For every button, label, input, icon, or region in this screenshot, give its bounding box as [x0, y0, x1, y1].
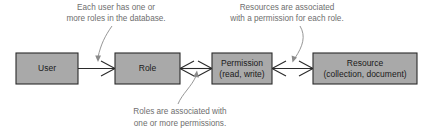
crow-foot-role-side	[101, 61, 115, 76]
entity-label-user: User	[38, 63, 56, 73]
leader-arrowhead-user-role	[95, 55, 101, 62]
entity-label-resource-line1: Resource	[347, 58, 384, 68]
crow-foot-permission-left	[198, 61, 212, 76]
leader-line-role-permission	[178, 76, 196, 104]
entity-relationship-diagram: User Role Permission (read, write) Resou…	[0, 0, 429, 133]
crow-foot-role-right	[180, 61, 194, 76]
annotation-permission-resource-line1: Resources are associated	[240, 3, 335, 12]
annotation-user-role-line1: Each user has one or	[77, 3, 155, 12]
entity-label-resource-line2: (collection, document)	[323, 69, 406, 79]
crow-foot-resource-left	[299, 61, 313, 76]
diagram-canvas: User Role Permission (read, write) Resou…	[0, 0, 429, 133]
annotation-role-permission-line1: Roles are associated with	[133, 107, 227, 116]
entity-permission[interactable]: Permission (read, write)	[212, 53, 272, 84]
relationship-permission-to-resource	[272, 61, 313, 76]
entity-label-role: Role	[139, 63, 157, 73]
leader-arrowhead-role-permission	[193, 71, 199, 78]
leader-line-user-role	[98, 26, 112, 57]
annotation-user-role-line2: more roles in the database.	[66, 14, 165, 23]
entity-role[interactable]: Role	[115, 53, 180, 84]
leader-line-permission-resource	[295, 26, 303, 58]
entity-user[interactable]: User	[16, 53, 78, 84]
annotation-permission-resource-line2: with a permission for each role.	[229, 14, 343, 23]
annotation-role-permission-line2: one or more permissions.	[134, 119, 226, 128]
crow-foot-permission-right	[272, 61, 286, 76]
entity-label-permission-line2: (read, write)	[219, 69, 265, 79]
entity-label-permission-line1: Permission	[221, 58, 263, 68]
entity-resource[interactable]: Resource (collection, document)	[313, 53, 417, 84]
relationship-user-to-role	[78, 61, 115, 76]
